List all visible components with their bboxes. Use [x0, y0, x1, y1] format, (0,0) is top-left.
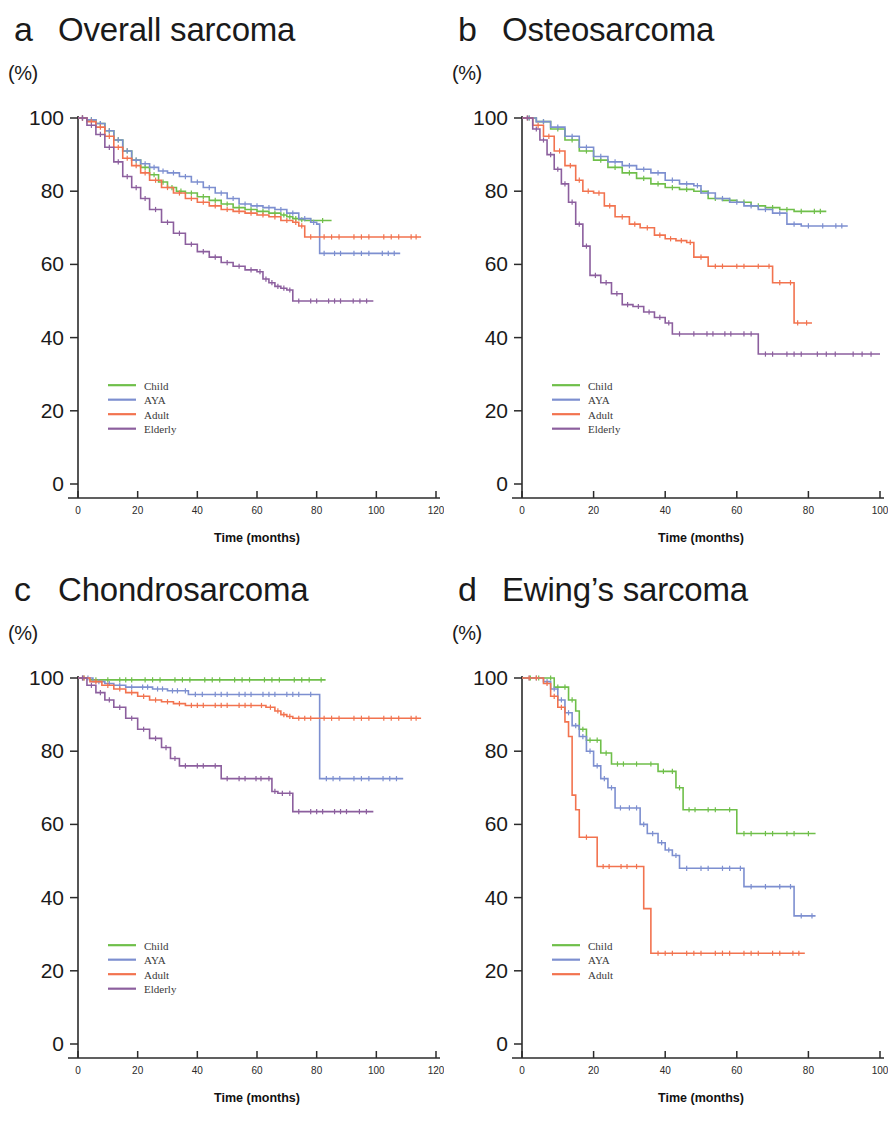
panel-c-plot: 020406080100020406080100120Time (months)…	[0, 560, 444, 1123]
x-tick-label: 60	[731, 1065, 743, 1076]
x-tick-label: 0	[519, 1065, 525, 1076]
x-tick-label: 20	[132, 505, 144, 516]
x-tick-label: 40	[192, 1065, 204, 1076]
legend-label-aya: AYA	[588, 394, 610, 406]
km-curve-adult	[78, 678, 421, 718]
y-tick-label: 100	[473, 666, 508, 689]
x-tick-label: 40	[660, 1065, 672, 1076]
legend-label-child: Child	[144, 940, 169, 952]
x-tick-label: 60	[731, 505, 743, 516]
y-tick-label: 60	[485, 252, 508, 275]
panel-b: b Osteosarcoma (%) 020406080100020406080…	[444, 0, 888, 560]
legend-label-elderly: Elderly	[144, 983, 177, 995]
km-curve-adult	[522, 678, 805, 953]
legend-label-child: Child	[588, 380, 613, 392]
x-tick-label: 80	[803, 505, 815, 516]
x-axis-title: Time (months)	[658, 531, 744, 545]
x-tick-label: 40	[192, 505, 204, 516]
y-tick-label: 20	[41, 959, 64, 982]
km-curve-aya	[522, 678, 816, 916]
y-tick-label: 100	[29, 666, 64, 689]
legend-label-adult: Adult	[144, 969, 169, 981]
x-tick-label: 20	[132, 1065, 144, 1076]
x-axis-title: Time (months)	[214, 1091, 300, 1105]
legend-label-adult: Adult	[144, 409, 169, 421]
x-tick-label: 100	[872, 1065, 888, 1076]
x-tick-label: 20	[588, 1065, 600, 1076]
y-tick-label: 100	[29, 106, 64, 129]
x-tick-label: 100	[872, 505, 888, 516]
y-tick-label: 80	[485, 179, 508, 202]
legend-label-elderly: Elderly	[588, 423, 621, 435]
x-tick-label: 100	[368, 505, 385, 516]
x-axis-title: Time (months)	[658, 1091, 744, 1105]
y-tick-label: 0	[52, 1032, 64, 1055]
y-tick-label: 20	[41, 399, 64, 422]
y-tick-label: 100	[473, 106, 508, 129]
x-tick-label: 0	[75, 1065, 81, 1076]
km-curve-child	[78, 678, 326, 680]
panel-d: d Ewing’s sarcoma (%) 020406080100020406…	[444, 560, 888, 1123]
panel-a: a Overall sarcoma (%) 020406080100020406…	[0, 0, 444, 560]
x-tick-label: 60	[251, 1065, 263, 1076]
y-tick-label: 40	[41, 886, 64, 909]
y-tick-label: 20	[485, 399, 508, 422]
legend-label-aya: AYA	[144, 394, 166, 406]
x-tick-label: 80	[803, 1065, 815, 1076]
y-tick-label: 60	[41, 252, 64, 275]
y-tick-label: 80	[485, 739, 508, 762]
km-curve-adult	[522, 118, 812, 323]
y-tick-label: 80	[41, 179, 64, 202]
x-tick-label: 120	[428, 505, 444, 516]
km-curve-aya	[522, 118, 848, 226]
y-tick-label: 60	[41, 812, 64, 835]
y-tick-label: 20	[485, 959, 508, 982]
panel-d-plot: 020406080100020406080100Time (months)Chi…	[444, 560, 888, 1123]
x-tick-label: 0	[75, 505, 81, 516]
km-curve-elderly	[78, 678, 373, 812]
x-tick-label: 80	[311, 1065, 323, 1076]
km-curve-child	[78, 118, 332, 220]
y-tick-label: 60	[485, 812, 508, 835]
x-axis-title: Time (months)	[214, 531, 300, 545]
y-tick-label: 0	[496, 472, 508, 495]
y-tick-label: 40	[485, 886, 508, 909]
x-tick-label: 0	[519, 505, 525, 516]
x-tick-label: 100	[368, 1065, 385, 1076]
y-tick-label: 80	[41, 739, 64, 762]
y-tick-label: 40	[41, 326, 64, 349]
legend-label-elderly: Elderly	[144, 423, 177, 435]
legend-label-child: Child	[144, 380, 169, 392]
panel-b-plot: 020406080100020406080100Time (months)Chi…	[444, 0, 888, 563]
legend-label-adult: Adult	[588, 969, 613, 981]
km-curve-child	[522, 118, 826, 211]
figure-grid: a Overall sarcoma (%) 020406080100020406…	[0, 0, 888, 1123]
x-tick-label: 80	[311, 505, 323, 516]
km-curve-elderly	[522, 118, 880, 354]
km-curve-adult	[78, 118, 421, 237]
x-tick-label: 40	[660, 505, 672, 516]
x-tick-label: 20	[588, 505, 600, 516]
panel-c: c Chondrosarcoma (%) 0204060801000204060…	[0, 560, 444, 1123]
km-curve-child	[522, 678, 816, 834]
legend-label-adult: Adult	[588, 409, 613, 421]
km-curve-aya	[78, 118, 400, 253]
legend-label-aya: AYA	[588, 954, 610, 966]
y-tick-label: 0	[52, 472, 64, 495]
x-tick-label: 60	[251, 505, 263, 516]
y-tick-label: 40	[485, 326, 508, 349]
panel-a-plot: 020406080100020406080100120Time (months)…	[0, 0, 444, 563]
legend-label-child: Child	[588, 940, 613, 952]
x-tick-label: 120	[428, 1065, 444, 1076]
y-tick-label: 0	[496, 1032, 508, 1055]
legend-label-aya: AYA	[144, 954, 166, 966]
